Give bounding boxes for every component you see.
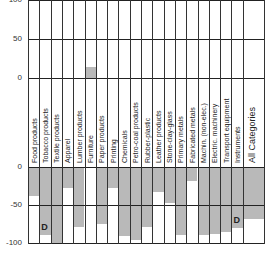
column-divider <box>231 0 232 244</box>
bar-bottom <box>199 167 209 235</box>
category-label: Printing <box>109 139 118 163</box>
column-divider <box>62 0 63 244</box>
bar-bottom <box>142 167 152 227</box>
y-tick-bottom-0: 0 <box>0 163 22 171</box>
category-label: Instruments <box>233 126 242 163</box>
y-tick-top-100: 100 <box>0 0 22 4</box>
bar-bottom <box>244 167 265 219</box>
column-divider <box>107 0 108 244</box>
category-label: Transport equipment <box>222 99 231 163</box>
bar-bottom <box>165 167 175 203</box>
category-label: Lumber products <box>75 110 84 163</box>
category-label: Chemicals <box>120 130 129 163</box>
gridline-bottom <box>28 167 265 168</box>
gridline-top <box>28 78 265 79</box>
category-label: Stone-clay-glass <box>165 111 174 163</box>
bar-bottom <box>176 167 186 235</box>
bar-bottom <box>119 167 129 236</box>
bar-bottom <box>97 167 107 224</box>
bar-bottom <box>108 167 118 188</box>
column-divider <box>118 0 119 244</box>
category-label: Apparel <box>63 139 72 163</box>
annotation-d: D <box>41 222 48 232</box>
bar-bottom <box>29 167 39 196</box>
bar-bottom <box>221 167 231 232</box>
category-label: Paper products <box>97 116 106 163</box>
y-tick-top-50: 50 <box>0 35 22 43</box>
bar-bottom <box>131 167 141 240</box>
column-divider <box>28 0 29 244</box>
gridline-bottom <box>28 243 265 244</box>
gridline-top <box>28 39 265 40</box>
bar-bottom <box>187 167 197 181</box>
gridline-top <box>28 0 265 1</box>
bar-bottom <box>153 167 163 192</box>
column-divider <box>243 0 244 244</box>
category-label: All Categories <box>248 107 257 163</box>
bar-bottom <box>74 167 84 227</box>
category-label: Furniture <box>86 135 95 163</box>
column-divider <box>264 0 265 244</box>
category-label: Tobacco products <box>41 108 50 163</box>
gridline-bottom <box>28 205 265 206</box>
category-label: Leather products <box>154 110 163 163</box>
category-label: Fabricated metals <box>188 107 197 163</box>
category-label: Primary metals <box>176 116 185 163</box>
category-label: Rubber-plastic <box>143 118 152 163</box>
category-label: Food products <box>30 118 39 163</box>
column-divider <box>220 0 221 244</box>
category-label: Textile products <box>52 114 61 163</box>
category-label: Petro-coal products <box>131 102 140 163</box>
bar-bottom <box>63 167 73 188</box>
category-label: Machin. (non-elec.) <box>199 103 208 163</box>
category-label: Electric. machinery <box>210 104 219 163</box>
y-tick-bottom-neg100: -100 <box>0 239 22 247</box>
y-tick-bottom-neg50: -50 <box>0 201 22 209</box>
annotation-d: D <box>233 215 240 225</box>
column-divider <box>141 0 142 244</box>
bar-top <box>86 67 96 78</box>
bar-bottom <box>210 167 220 234</box>
column-divider <box>85 0 86 244</box>
y-tick-top-0: 0 <box>0 74 22 82</box>
